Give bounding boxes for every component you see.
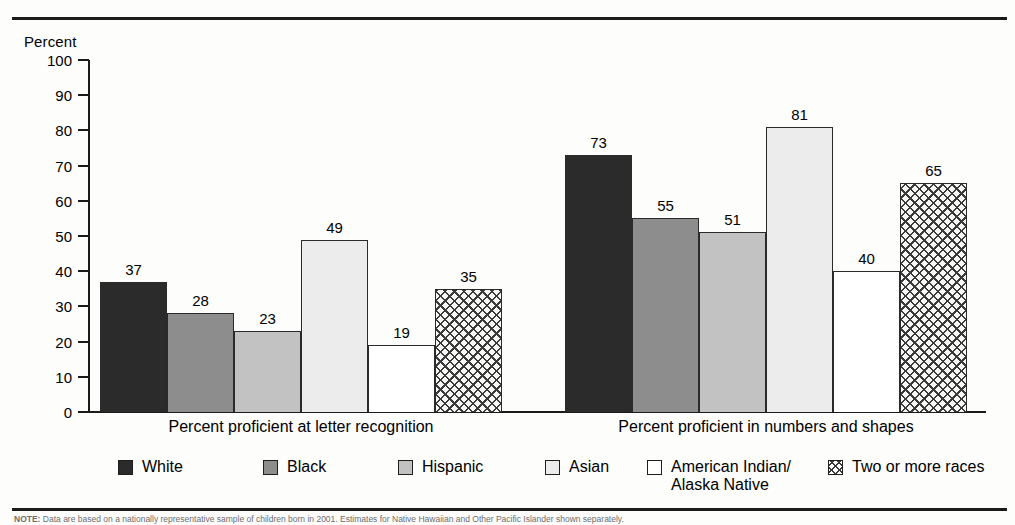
bar-value-label: 37 [100, 262, 167, 277]
legend-swatch-icon [398, 460, 413, 475]
legend-swatch-icon [828, 460, 843, 475]
legend-swatch-icon [263, 460, 278, 475]
group-label: Percent proficient at letter recognition [100, 418, 502, 436]
bar [368, 345, 435, 412]
bar-value-label: 23 [234, 311, 301, 326]
legend-item-asian[interactable]: Asian [545, 458, 609, 476]
bar-value-label: 73 [565, 135, 632, 150]
legend-swatch-icon [647, 460, 662, 475]
bar [167, 313, 234, 412]
bar-value-label: 81 [766, 107, 833, 122]
bar-value-label: 55 [632, 198, 699, 213]
bar [900, 183, 967, 412]
bar [565, 155, 632, 412]
legend-swatch-icon [118, 460, 133, 475]
bar [833, 271, 900, 412]
bar-value-label: 19 [368, 325, 435, 340]
legend-item-label-line2: Alaska Native [671, 476, 791, 494]
bar [632, 218, 699, 412]
legend-item-label: White [142, 458, 183, 476]
legend-item-american-indian[interactable]: American Indian/Alaska Native [647, 458, 791, 494]
legend-item-label: Hispanic [422, 458, 483, 476]
legend-item-label: Two or more races [852, 458, 984, 476]
note-prefix: NOTE: [14, 514, 40, 524]
bottom-divider [12, 508, 1007, 511]
group-label: Percent proficient in numbers and shapes [565, 418, 967, 436]
legend-item-black[interactable]: Black [263, 458, 326, 476]
bar [435, 289, 502, 412]
legend-item-hispanic[interactable]: Hispanic [398, 458, 483, 476]
chart-legend: WhiteBlackHispanicAsianAmerican Indian/A… [0, 458, 1015, 506]
bar-value-label: 65 [900, 163, 967, 178]
legend-item-label: Asian [569, 458, 609, 476]
bar [699, 232, 766, 412]
note-text: Data are based on a nationally represent… [43, 514, 624, 524]
legend-item-two-or-more-races[interactable]: Two or more races [828, 458, 984, 476]
bar [234, 331, 301, 412]
legend-item-label: American Indian/Alaska Native [671, 458, 791, 494]
chart-note: NOTE: Data are based on a nationally rep… [14, 514, 1006, 525]
bar-value-label: 35 [435, 269, 502, 284]
legend-swatch-icon [545, 460, 560, 475]
legend-item-white[interactable]: White [118, 458, 183, 476]
bar-value-label: 28 [167, 293, 234, 308]
bars-layer: 372823491935735551814065 [0, 0, 1015, 525]
bar-value-label: 49 [301, 220, 368, 235]
bar-value-label: 51 [699, 212, 766, 227]
bar [100, 282, 167, 412]
bar-value-label: 40 [833, 251, 900, 266]
legend-item-label: Black [287, 458, 326, 476]
bar [766, 127, 833, 412]
chart-page: Percent 0102030405060708090100 372823491… [0, 0, 1015, 525]
bar [301, 240, 368, 412]
